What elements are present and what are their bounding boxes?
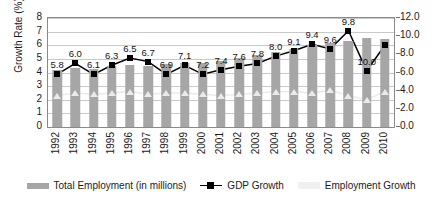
data-column: 9.8 [339, 18, 357, 127]
x-tick-label: 2005 [288, 132, 298, 154]
legend-item[interactable]: Total Employment (in millions) [27, 180, 187, 191]
data-column: 6.9 [157, 18, 175, 127]
y-tick-label-left: 7 [16, 26, 42, 36]
data-column: 6.5 [121, 18, 139, 127]
legend-label: Total Employment (in millions) [54, 180, 187, 191]
employment-growth-marker [235, 91, 243, 97]
employment-growth-marker [53, 93, 61, 99]
data-column: 9.6 [321, 18, 339, 127]
bar-total-employment [71, 68, 80, 127]
employment-growth-marker [126, 89, 134, 95]
y-tick-label-right: 12.0 [400, 12, 432, 22]
x-tick-label: 1996 [124, 132, 134, 154]
y-tick-label-left: 3 [16, 80, 42, 90]
x-tick-label: 1999 [179, 132, 189, 154]
gdp-data-label: 7.2 [196, 60, 209, 70]
data-column: 7.1 [175, 18, 193, 127]
bar-total-employment [307, 45, 316, 127]
legend-item[interactable]: GDP Growth [200, 180, 284, 191]
gdp-data-label: 6.0 [69, 49, 82, 59]
data-column: 7.2 [194, 18, 212, 127]
gdp-data-label: 8.0 [269, 42, 282, 52]
bar-total-employment [125, 65, 134, 127]
y-tick-mark-right [396, 72, 400, 73]
gdp-growth-marker [72, 60, 78, 66]
x-tick-label: 2008 [342, 132, 352, 154]
x-tick-label: 2009 [361, 132, 371, 154]
employment-growth-marker [344, 93, 352, 99]
gdp-growth-marker [218, 67, 224, 73]
employment-growth-marker [381, 89, 389, 95]
bar-total-employment [362, 38, 371, 127]
gdp-data-label: 10.0 [357, 57, 376, 67]
data-column: 9.4 [303, 18, 321, 127]
gdp-growth-marker [182, 62, 188, 68]
y-tick-mark-right [396, 90, 400, 91]
bar-total-employment [107, 66, 116, 127]
gdp-growth-marker [145, 59, 151, 65]
gdp-growth-marker [309, 41, 315, 47]
x-tick-label: 2006 [306, 132, 316, 154]
y-tick-label-left: 2 [16, 94, 42, 104]
x-tick-label: 2007 [324, 132, 334, 154]
employment-growth-marker [162, 90, 170, 96]
gdp-growth-marker [364, 68, 370, 74]
employment-growth-marker [71, 90, 79, 96]
gdp-growth-marker [291, 48, 297, 54]
y-tick-label-left: 0 [16, 121, 42, 131]
y-tick-mark-right [396, 35, 400, 36]
employment-growth-marker [272, 89, 280, 95]
gdp-data-label: 6.3 [105, 51, 118, 61]
data-column: 8.0 [267, 18, 285, 127]
gdp-data-label: 6.7 [142, 48, 155, 58]
x-tick-label: 2002 [233, 132, 243, 154]
legend-line-marker-icon [200, 182, 222, 190]
employment-growth-marker [144, 91, 152, 97]
data-column: 7.8 [248, 18, 266, 127]
plot-area: 5.86.06.16.36.56.76.97.17.27.47.67.88.09… [47, 17, 395, 128]
gdp-data-label: 6.5 [123, 44, 136, 54]
data-column: 6.1 [84, 18, 102, 127]
data-column: 7.6 [230, 18, 248, 127]
y-tick-label-right: 4.0 [400, 85, 432, 95]
gdp-data-label: 9.6 [324, 35, 337, 45]
x-tick-label: 2010 [379, 132, 389, 154]
gdp-growth-marker [327, 46, 333, 52]
y-tick-label-left: 6 [16, 39, 42, 49]
gdp-data-label: 9.4 [305, 30, 318, 40]
y-tick-label-right: 6.0 [400, 67, 432, 77]
y-tick-label-right: 2.0 [400, 103, 432, 113]
employment-growth-marker [181, 90, 189, 96]
employment-growth-marker [199, 91, 207, 97]
gdp-data-label: 7.1 [178, 51, 191, 61]
data-column: 7.4 [212, 18, 230, 127]
gdp-growth-marker [109, 62, 115, 68]
data-column [376, 18, 394, 127]
gdp-growth-marker [54, 71, 60, 77]
y-tick-label-right: 10.0 [400, 30, 432, 40]
gdp-data-label: 9.8 [342, 17, 355, 27]
employment-growth-marker [290, 89, 298, 95]
data-column: 5.8 [48, 18, 66, 127]
x-tick-label: 1994 [88, 132, 98, 154]
x-tick-label: 1995 [106, 132, 116, 154]
data-column: 6.3 [103, 18, 121, 127]
gdp-growth-marker [163, 71, 169, 77]
legend-item[interactable]: Employment Growth [298, 180, 416, 191]
y-tick-mark-right [396, 126, 400, 127]
x-tick-label: 2001 [215, 132, 225, 154]
data-column: 6.0 [66, 18, 84, 127]
employment-growth-marker [253, 90, 261, 96]
gdp-data-label: 9.1 [287, 37, 300, 47]
x-tick-label: 2004 [270, 132, 280, 154]
x-tick-label: 1992 [51, 132, 61, 154]
legend-label: GDP Growth [227, 180, 284, 191]
gdp-growth-marker [200, 71, 206, 77]
gdp-growth-marker [127, 55, 133, 61]
gdp-data-label: 7.8 [251, 49, 264, 59]
gdp-data-label: 6.9 [160, 60, 173, 70]
employment-growth-marker [363, 97, 371, 103]
employment-growth-marker [108, 90, 116, 96]
gdp-data-label: 7.4 [214, 56, 227, 66]
y-tick-label-right: 8.0 [400, 48, 432, 58]
